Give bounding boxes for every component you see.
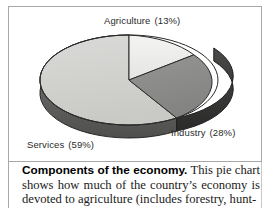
pie-label-industry-pct: (28%)	[210, 127, 236, 138]
pie-label-agriculture-pct: (13%)	[155, 15, 181, 26]
figure-caption: Components of the economy. This pie char…	[22, 163, 260, 207]
figure-caption-title: Components of the economy.	[22, 163, 187, 177]
pie-label-agriculture: Agriculture(13%)	[104, 15, 180, 26]
pie-label-industry-name: Industry	[171, 127, 206, 138]
caption-left-rule	[8, 162, 9, 208]
caption-right-rule	[261, 162, 262, 208]
pie-label-services: Services(59%)	[27, 139, 94, 150]
pie-label-services-pct: (59%)	[68, 139, 94, 150]
pie-label-agriculture-name: Agriculture	[104, 15, 151, 26]
pie-label-industry: Industry(28%)	[171, 127, 235, 138]
pie-label-services-name: Services	[27, 139, 64, 150]
figure-root: Agriculture(13%) Industry(28%) Services(…	[0, 0, 271, 208]
